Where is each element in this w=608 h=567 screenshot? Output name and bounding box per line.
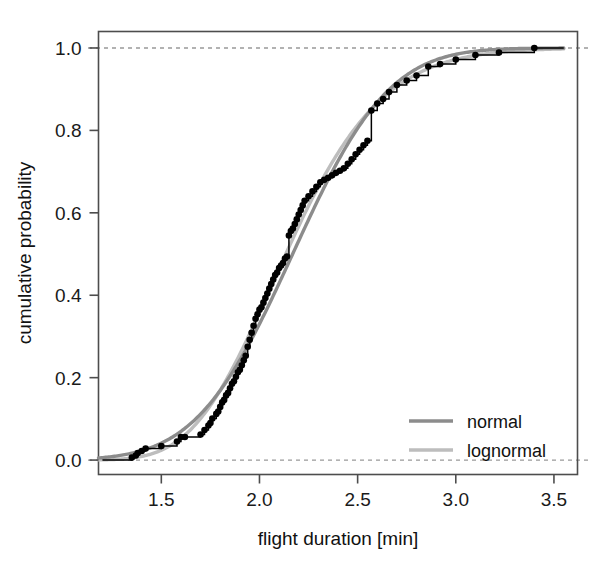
- y-axis-title: cumulative probability: [14, 161, 35, 344]
- plot-frame: [99, 32, 578, 475]
- data-point: [452, 56, 459, 63]
- legend-label-normal: normal: [467, 412, 522, 432]
- data-point: [242, 353, 249, 360]
- y-axis-ticks: 0.00.20.40.60.81.0: [55, 38, 98, 471]
- normal-curve: [99, 48, 564, 458]
- data-point: [394, 82, 401, 89]
- x-axis-ticks: 1.52.02.53.03.5: [148, 475, 567, 510]
- data-point: [284, 253, 291, 260]
- data-point: [425, 63, 432, 70]
- data-point: [403, 77, 410, 84]
- data-point: [437, 61, 444, 68]
- data-point: [496, 49, 503, 56]
- data-point: [531, 45, 538, 52]
- y-tick-label: 0.0: [55, 450, 81, 471]
- data-point: [250, 322, 257, 329]
- y-tick-label: 0.6: [55, 203, 81, 224]
- x-axis-title: flight duration [min]: [258, 528, 419, 549]
- data-point: [244, 343, 251, 350]
- x-tick-label: 3.5: [541, 489, 567, 510]
- x-tick-label: 2.5: [344, 489, 370, 510]
- x-tick-label: 2.0: [246, 489, 272, 510]
- data-point: [368, 107, 375, 114]
- data-point: [364, 137, 371, 144]
- data-point: [472, 52, 479, 59]
- y-tick-label: 0.4: [55, 285, 82, 306]
- data-point: [380, 96, 387, 103]
- reference-lines: [88, 48, 592, 460]
- x-tick-label: 1.5: [148, 489, 174, 510]
- y-tick-label: 0.8: [55, 120, 81, 141]
- data-point: [142, 445, 149, 452]
- chart-figure: 0.00.20.40.60.81.0 1.52.02.53.03.5 fligh…: [0, 0, 608, 567]
- data-point: [246, 336, 253, 343]
- legend-label-lognormal: lognormal: [467, 441, 546, 461]
- lognormal-curve: [99, 49, 564, 460]
- x-tick-label: 3.0: [443, 489, 469, 510]
- empirical-data-points: [129, 45, 538, 461]
- data-point: [374, 100, 381, 107]
- legend: normal lognormal: [409, 412, 546, 461]
- data-point: [182, 434, 189, 441]
- data-point: [248, 329, 255, 336]
- ecdf-plot: 0.00.20.40.60.81.0 1.52.02.53.03.5 fligh…: [0, 0, 608, 567]
- data-point: [158, 443, 165, 450]
- data-point: [386, 89, 393, 96]
- y-tick-label: 1.0: [55, 38, 81, 59]
- empirical-step-curve: [102, 48, 563, 460]
- data-point: [413, 72, 420, 79]
- y-tick-label: 0.2: [55, 368, 81, 389]
